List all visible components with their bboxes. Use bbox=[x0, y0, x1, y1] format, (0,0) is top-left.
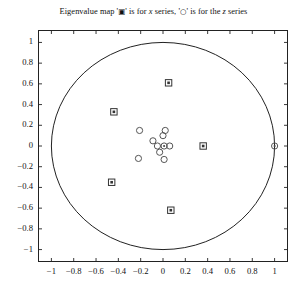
y-tick-label: 0.4 bbox=[3, 99, 33, 109]
chart-root: Eigenvalue map '▣' is for x series, '○' … bbox=[0, 0, 307, 296]
title-mid: ' is for bbox=[125, 7, 149, 16]
data-point bbox=[168, 207, 174, 213]
data-point bbox=[161, 156, 167, 162]
chart-title: Eigenvalue map '▣' is for x series, '○' … bbox=[0, 6, 307, 17]
title-prefix: Eigenvalue map ' bbox=[60, 7, 119, 16]
y-tick-label: −0.4 bbox=[3, 181, 33, 191]
plot-area: −1−0.8−0.6−0.4−0.200.20.40.60.81 −1−0.8−… bbox=[38, 30, 288, 262]
y-tick-label: −1 bbox=[3, 244, 33, 254]
data-point bbox=[165, 80, 171, 86]
y-tick-label: 0.2 bbox=[3, 119, 33, 129]
y-tick-label: 0 bbox=[3, 140, 33, 150]
data-point bbox=[136, 127, 142, 133]
plot-canvas bbox=[38, 30, 288, 262]
data-point bbox=[162, 127, 168, 133]
data-point bbox=[108, 179, 114, 185]
data-points bbox=[108, 80, 277, 214]
y-tick-label: −0.8 bbox=[3, 223, 33, 233]
title-suffix: series bbox=[226, 7, 248, 16]
data-point bbox=[150, 138, 156, 144]
title-mid3: ' is for the bbox=[186, 7, 222, 16]
data-point bbox=[157, 149, 163, 155]
data-point bbox=[111, 109, 117, 115]
y-tick-label: 1 bbox=[3, 36, 33, 46]
data-point bbox=[135, 155, 141, 161]
title-mid2: series, ' bbox=[153, 7, 180, 16]
data-point bbox=[200, 143, 206, 149]
y-tick-label: 0.8 bbox=[3, 57, 33, 67]
x-tick-label: 1 bbox=[260, 266, 290, 276]
unit-circle-outline bbox=[51, 42, 274, 249]
y-tick-label: −0.2 bbox=[3, 161, 33, 171]
tick-marks bbox=[38, 30, 288, 262]
y-tick-label: −0.6 bbox=[3, 202, 33, 212]
y-tick-label: 0.6 bbox=[3, 78, 33, 88]
data-point bbox=[154, 143, 160, 149]
